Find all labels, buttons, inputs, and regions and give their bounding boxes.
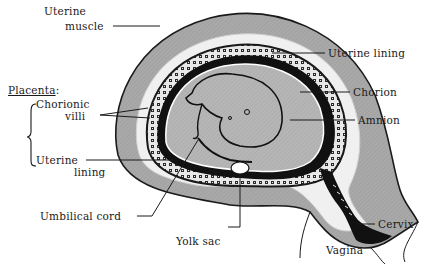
label-yolk-sac: Yolk sac xyxy=(176,235,221,247)
yolk-sac xyxy=(231,162,249,174)
label-placenta-heading: Placenta: xyxy=(8,84,59,96)
label-amnion: Amnion xyxy=(358,114,400,126)
label-uterine-muscle-2: muscle xyxy=(65,20,104,32)
label-cervix: Cervix xyxy=(378,218,414,230)
label-uterine-lining-top: Uterine lining xyxy=(328,47,405,59)
label-uterine-lining-left-2: lining xyxy=(74,166,106,178)
label-uterine-lining-left: Uterine xyxy=(36,154,78,166)
placenta-brace xyxy=(27,104,36,166)
label-umbilical-cord: Umbilical cord xyxy=(40,210,121,222)
label-chorionic-villi-2: villi xyxy=(65,110,85,122)
label-uterine-muscle: Uterine xyxy=(44,5,86,17)
label-vagina: Vagina xyxy=(326,244,363,256)
uterus-diagram xyxy=(0,0,426,264)
label-chorion: Chorion xyxy=(353,86,397,98)
label-chorionic-villi: Chorionic xyxy=(36,98,90,110)
uterine-muscle-line1: Uterine xyxy=(44,5,86,17)
